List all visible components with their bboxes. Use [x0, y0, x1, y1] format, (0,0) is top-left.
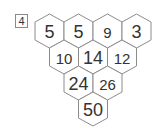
- cell-value: 3: [131, 22, 141, 42]
- cell-value: 24: [68, 74, 88, 94]
- cell-value: 5: [73, 22, 83, 42]
- hex-cell: 50: [79, 92, 108, 126]
- cell-value: 12: [114, 50, 131, 67]
- cell-value: 10: [56, 50, 73, 67]
- hexagon-pyramid: 5593101412242650: [0, 0, 160, 128]
- cell-value: 9: [103, 24, 111, 41]
- pyramid-cells: 5593101412242650: [35, 14, 151, 126]
- cell-value: 5: [44, 22, 54, 42]
- cell-value: 26: [99, 76, 116, 93]
- cell-value: 50: [83, 100, 103, 120]
- cell-value: 14: [83, 48, 103, 68]
